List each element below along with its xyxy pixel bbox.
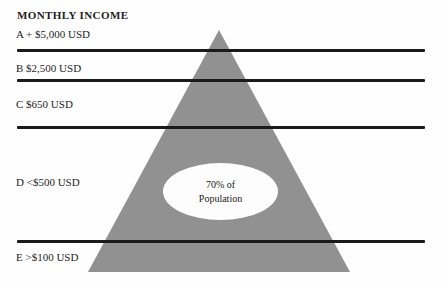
diagram-title: MONTHLY INCOME (17, 9, 128, 21)
level-label-d: D <$500 USD (16, 176, 80, 188)
level-label-c: C $650 USD (16, 98, 73, 110)
level-label-b: B $2,500 USD (16, 62, 81, 74)
divider-line-c-d (17, 126, 425, 129)
population-callout-line1: 70% of (206, 178, 235, 192)
divider-line-b-c (17, 79, 425, 82)
population-callout-line2: Population (199, 192, 242, 206)
pyramid-triangle-shape (88, 30, 350, 272)
level-label-e: E >$100 USD (16, 251, 78, 263)
divider-line-d-e (17, 240, 425, 243)
level-label-a: A + $5,000 USD (16, 28, 90, 40)
divider-line-a-b (17, 49, 425, 52)
population-ellipse: 70% of Population (163, 163, 278, 220)
income-pyramid-diagram: MONTHLY INCOME A + $5,000 USD B $2,500 U… (0, 0, 442, 285)
